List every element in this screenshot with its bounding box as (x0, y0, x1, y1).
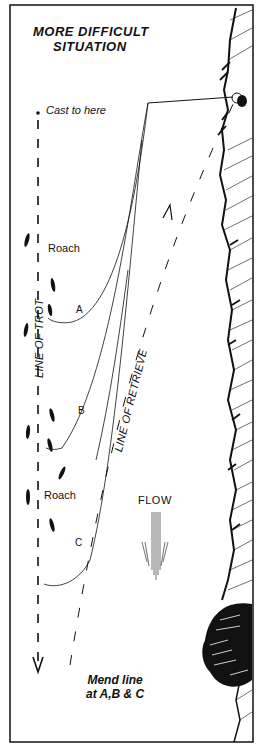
title-line-1: MORE DIFFICULT (33, 24, 149, 39)
bush (202, 603, 252, 687)
roach-label-lower: Roach (44, 489, 76, 501)
cast-point-label: Cast to here (46, 104, 106, 116)
diagram-title: MORE DIFFICULT SITUATION (33, 24, 149, 54)
flow-label: FLOW (138, 494, 172, 506)
point-b-label: B (78, 405, 85, 416)
line-curve-a (48, 103, 148, 323)
diagram-frame: MORE DIFFICULT SITUATION Cast to here Ro… (0, 0, 268, 751)
retrieve-arrowhead (163, 205, 172, 220)
angler-figure (232, 93, 247, 107)
line-of-trot-label: LINE OF TROT (33, 299, 45, 378)
cast-point-dot (36, 111, 40, 115)
point-c-label: C (75, 537, 82, 548)
roach-label-upper: Roach (48, 242, 80, 254)
line-curve-c (44, 140, 142, 586)
point-a-label: A (76, 304, 83, 315)
note-line-2: at A,B & C (86, 687, 144, 701)
flow-arrow-icon (142, 512, 168, 580)
title-line-2: SITUATION (33, 39, 149, 54)
line-of-retrieve (70, 100, 235, 665)
roach-fish (23, 233, 67, 533)
note-line-1: Mend line (86, 673, 144, 687)
mend-line-note: Mend line at A,B & C (86, 673, 144, 701)
bank-lower (234, 680, 240, 742)
rod-line (148, 97, 233, 103)
